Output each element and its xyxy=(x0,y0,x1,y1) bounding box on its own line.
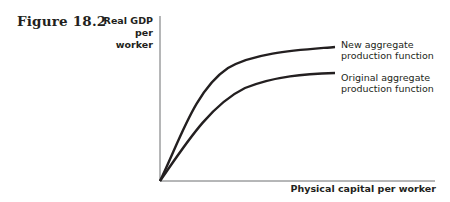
x-axis-label: Physical capital per worker xyxy=(291,183,436,194)
chart-plot xyxy=(0,0,450,202)
original-curve-label: Original aggregate production function xyxy=(341,73,434,94)
new-curve-label: New aggregate production function xyxy=(341,40,434,61)
original-production-curve xyxy=(160,73,335,181)
new-production-curve xyxy=(160,47,335,181)
